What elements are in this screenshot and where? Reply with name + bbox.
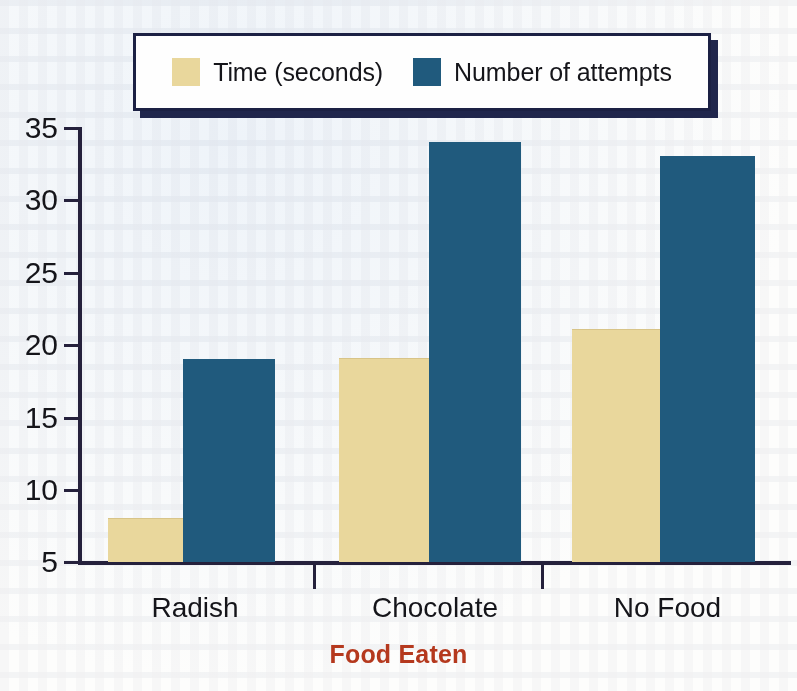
y-tick-label-20: 20 (0, 330, 58, 360)
y-tick-mark-35 (64, 127, 80, 130)
y-tick-label-10: 10 (0, 475, 58, 505)
x-category-label-radish: Radish (115, 592, 275, 624)
y-tick-label-5: 5 (0, 547, 58, 577)
y-tick-mark-20 (64, 344, 80, 347)
y-tick-mark-5 (64, 561, 80, 564)
bar-chocolate-time[interactable] (339, 358, 429, 562)
y-tick-label-15: 15 (0, 403, 58, 433)
plot-area: 35 30 25 20 15 10 5 Radish Chocolate No … (0, 0, 797, 691)
y-tick-mark-15 (64, 417, 80, 420)
y-tick-mark-10 (64, 489, 80, 492)
x-axis-title: Food Eaten (0, 640, 797, 669)
bar-nofood-attempts[interactable] (660, 156, 755, 562)
bar-radish-time[interactable] (108, 518, 183, 563)
y-tick-label-30: 30 (0, 185, 58, 215)
bar-chocolate-attempts[interactable] (429, 142, 521, 563)
x-group-separator-2 (541, 565, 544, 589)
x-group-separator-1 (313, 565, 316, 589)
bar-nofood-time[interactable] (572, 329, 660, 562)
y-tick-label-35: 35 (0, 113, 58, 143)
x-category-label-nofood: No Food (580, 592, 755, 624)
y-tick-mark-25 (64, 272, 80, 275)
y-tick-label-25: 25 (0, 258, 58, 288)
bar-radish-attempts[interactable] (183, 359, 275, 562)
x-category-label-chocolate: Chocolate (350, 592, 520, 624)
bar-chart: Time (seconds) Number of attempts 35 30 … (0, 0, 797, 691)
y-tick-mark-30 (64, 199, 80, 202)
